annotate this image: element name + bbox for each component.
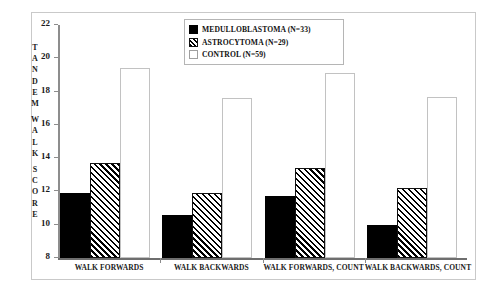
- y-tick-label: 14: [41, 151, 50, 161]
- legend-item: MEDULLOBLASTOMA (N=33): [189, 24, 338, 36]
- category-label: WALK BACKWARDS, COUNT: [365, 263, 467, 273]
- y-title-char: E: [28, 87, 42, 98]
- legend-swatch-astrocytoma: [189, 38, 198, 47]
- bar-medulloblastoma: [265, 196, 295, 258]
- bar-control: [427, 97, 457, 258]
- y-tick-label: 18: [41, 85, 50, 95]
- bar-astrocytoma: [90, 163, 120, 258]
- category-label: WALK FORWARDS, COUNT: [263, 263, 365, 273]
- category-label: WALK FORWARDS: [58, 263, 160, 273]
- y-title-char: M: [28, 98, 42, 109]
- y-title-char: A: [28, 53, 42, 64]
- legend-label-astrocytoma: ASTROCYTOMA (N=29): [202, 38, 288, 47]
- category-label: WALK BACKWARDS: [160, 263, 262, 273]
- y-title-char: C: [28, 175, 42, 186]
- y-tick-label: 22: [41, 18, 50, 28]
- chart-legend: MEDULLOBLASTOMA (N=33) ASTROCYTOMA (N=29…: [184, 19, 344, 65]
- y-tick-label: 10: [41, 218, 50, 228]
- legend-label-control: CONTROL (N=59): [202, 50, 266, 59]
- legend-swatch-control: [189, 50, 198, 59]
- legend-item: ASTROCYTOMA (N=29): [189, 36, 338, 48]
- y-title-char: T: [28, 42, 42, 53]
- y-title-char: W: [28, 114, 42, 125]
- y-tick-label: 16: [41, 118, 50, 128]
- y-title-char: A: [28, 125, 42, 136]
- y-title-char: O: [28, 186, 42, 197]
- y-title-char: S: [28, 164, 42, 175]
- y-axis-title: TANDEMWALKSCORE: [28, 42, 42, 220]
- y-title-char: D: [28, 76, 42, 87]
- y-title-char: R: [28, 198, 42, 209]
- y-tick-label: 8: [46, 251, 51, 261]
- legend-label-medulloblastoma: MEDULLOBLASTOMA (N=33): [202, 25, 311, 34]
- y-tick-label: 12: [41, 184, 50, 194]
- bar-control: [222, 98, 252, 258]
- bar-astrocytoma: [295, 168, 325, 258]
- chart-figure: TANDEMWALKSCORE 810121416182022 WALK FOR…: [0, 0, 487, 292]
- legend-item: CONTROL (N=59): [189, 49, 338, 61]
- bar-astrocytoma: [192, 193, 222, 258]
- bar-astrocytoma: [397, 188, 427, 258]
- bar-medulloblastoma: [367, 225, 397, 258]
- y-title-char: N: [28, 64, 42, 75]
- bar-medulloblastoma: [60, 193, 90, 258]
- bar-medulloblastoma: [162, 215, 192, 258]
- y-title-char: L: [28, 137, 42, 148]
- bar-control: [120, 68, 150, 258]
- y-title-char: K: [28, 148, 42, 159]
- legend-swatch-medulloblastoma: [189, 25, 198, 34]
- y-title-char: E: [28, 209, 42, 220]
- bar-control: [325, 73, 355, 258]
- y-tick-label: 20: [41, 51, 50, 61]
